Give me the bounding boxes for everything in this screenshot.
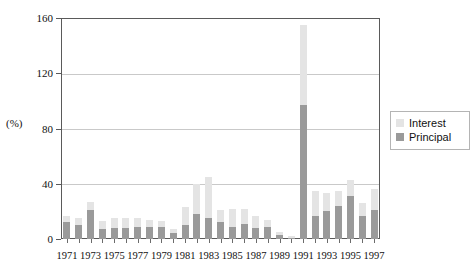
bar-group[interactable] <box>288 18 295 239</box>
x-tick-1986 <box>244 239 245 243</box>
x-tick-1984 <box>221 239 222 243</box>
bar-segment-interest <box>134 218 141 226</box>
x-tick-1996 <box>362 239 363 243</box>
bar-segment-interest <box>323 193 330 211</box>
bar-segment-interest <box>193 184 200 214</box>
bar-group[interactable] <box>359 18 366 239</box>
bar-group[interactable] <box>146 18 153 239</box>
bar-group[interactable] <box>300 18 307 239</box>
bar-segment-principal <box>146 227 153 239</box>
y-tick-160 <box>56 18 61 19</box>
legend-item-interest: Interest <box>396 116 464 130</box>
legend-label-interest: Interest <box>409 117 446 129</box>
bar-segment-principal <box>205 218 212 239</box>
bar-segment-interest <box>288 236 295 237</box>
bar-segment-principal <box>122 228 129 239</box>
bar-segment-interest <box>182 207 189 225</box>
x-tick-1974 <box>102 239 103 243</box>
bar-group[interactable] <box>347 18 354 239</box>
y-axis-unit-label: (%) <box>6 118 23 129</box>
bar-group[interactable] <box>229 18 236 239</box>
bar-group[interactable] <box>99 18 106 239</box>
bar-group[interactable] <box>75 18 82 239</box>
bar-segment-interest <box>75 218 82 225</box>
x-tick-1971 <box>67 239 68 243</box>
bar-group[interactable] <box>205 18 212 239</box>
bar-group[interactable] <box>241 18 248 239</box>
legend-swatch-principal <box>396 133 404 141</box>
x-tick-1990 <box>291 239 292 243</box>
bar-group[interactable] <box>193 18 200 239</box>
bar-group[interactable] <box>87 18 94 239</box>
bar-segment-interest <box>217 210 224 222</box>
bar-segment-interest <box>99 221 106 229</box>
bar-segment-principal <box>359 216 366 239</box>
bar-group[interactable] <box>134 18 141 239</box>
bar-segment-principal <box>193 214 200 239</box>
bar-group[interactable] <box>252 18 259 239</box>
bar-group[interactable] <box>63 18 70 239</box>
x-tick-1992 <box>315 239 316 243</box>
x-tick-1978 <box>150 239 151 243</box>
x-tick-1972 <box>79 239 80 243</box>
bar-segment-interest <box>158 221 165 227</box>
bar-segment-interest <box>276 232 283 235</box>
bar-segment-interest <box>359 203 366 215</box>
bar-segment-interest <box>300 25 307 105</box>
bar-segment-interest <box>87 202 94 210</box>
bar-segment-interest <box>264 220 271 227</box>
bar-segment-interest <box>170 229 177 233</box>
y-tick-80 <box>56 129 61 130</box>
bar-segment-interest <box>312 191 319 216</box>
bar-segment-interest <box>229 209 236 227</box>
y-tick-0 <box>56 239 61 240</box>
bar-group[interactable] <box>182 18 189 239</box>
bar-group[interactable] <box>122 18 129 239</box>
bar-segment-principal <box>158 227 165 239</box>
bar-segment-principal <box>217 222 224 239</box>
bar-segment-principal <box>63 222 70 239</box>
bar-segment-principal <box>99 229 106 239</box>
x-tick-1981 <box>185 239 186 243</box>
bar-segment-principal <box>252 228 259 239</box>
x-tick-1979 <box>161 239 162 243</box>
bar-group[interactable] <box>323 18 330 239</box>
bar-segment-principal <box>335 206 342 239</box>
bar-segment-principal <box>323 211 330 239</box>
bar-group[interactable] <box>170 18 177 239</box>
bar-group[interactable] <box>371 18 378 239</box>
bars-layer <box>61 18 380 239</box>
bar-segment-interest <box>347 180 354 197</box>
bar-segment-principal <box>111 228 118 239</box>
bar-segment-principal <box>312 216 319 239</box>
bar-group[interactable] <box>158 18 165 239</box>
bar-segment-principal <box>300 105 307 239</box>
bar-group[interactable] <box>111 18 118 239</box>
bar-segment-interest <box>122 218 129 228</box>
bar-group[interactable] <box>217 18 224 239</box>
bar-group[interactable] <box>276 18 283 239</box>
bar-segment-principal <box>182 225 189 239</box>
bar-group[interactable] <box>335 18 342 239</box>
x-tick-1977 <box>138 239 139 243</box>
y-tick-label-120: 120 <box>13 68 53 79</box>
y-tick-40 <box>56 184 61 185</box>
bar-segment-interest <box>335 191 342 206</box>
x-tick-1994 <box>339 239 340 243</box>
bar-segment-principal <box>75 225 82 239</box>
bar-segment-interest <box>371 189 378 210</box>
bar-segment-interest <box>146 220 153 227</box>
bar-segment-principal <box>241 224 248 239</box>
x-tick-1975 <box>114 239 115 243</box>
x-tick-1976 <box>126 239 127 243</box>
bar-group[interactable] <box>312 18 319 239</box>
y-tick-label-40: 40 <box>13 179 53 190</box>
y-tick-label-0: 0 <box>13 234 53 245</box>
bar-segment-interest <box>241 209 248 224</box>
bar-group[interactable] <box>264 18 271 239</box>
legend-label-principal: Principal <box>409 131 451 143</box>
y-tick-label-160: 160 <box>13 13 53 24</box>
x-tick-1991 <box>303 239 304 243</box>
x-tick-label-1997: 1997 <box>357 250 391 261</box>
x-tick-1988 <box>268 239 269 243</box>
